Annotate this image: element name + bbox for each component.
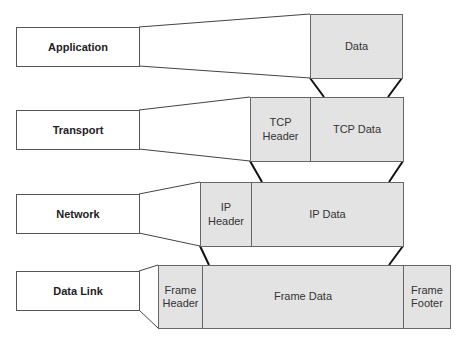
layer-label: Network (56, 208, 99, 220)
layer-label: Application (48, 41, 108, 53)
segment-frame-header: Frame Header (158, 265, 203, 329)
segment-ip-data: IP Data (251, 182, 404, 247)
segment-tcp-data: TCP Data (310, 97, 404, 162)
segment-frame-data: Frame Data (202, 265, 404, 329)
layer-label: Transport (53, 124, 104, 136)
layer-transport: Transport (16, 110, 140, 150)
segment-frame-footer: Frame Footer (403, 265, 451, 329)
segment-tcp-header: TCP Header (250, 97, 311, 162)
layer-label: Data Link (53, 285, 103, 297)
segment-data: Data (310, 14, 403, 79)
layer-application: Application (16, 27, 140, 67)
segment-ip-header: IP Header (200, 182, 252, 247)
layer-network: Network (16, 194, 140, 234)
layer-data-link: Data Link (16, 271, 140, 311)
